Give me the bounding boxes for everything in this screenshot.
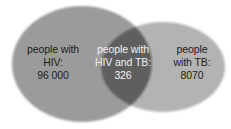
label-hiv-only: people with HIV: 96 000 [8,43,98,82]
tb-only-line-2: with TB: [160,56,224,69]
tb-only-value: 8070 [160,69,224,82]
venn-diagram: people with HIV: 96 000 people with HIV … [0,0,231,129]
intersection-value: 326 [88,69,158,82]
tb-only-line-1: people [160,43,224,56]
intersection-line-1: people with [88,43,158,56]
hiv-only-line-1: people with [8,43,98,56]
label-tb-only: people with TB: 8070 [160,43,224,82]
hiv-only-line-2: HIV: [8,56,98,69]
label-intersection: people with HIV and TB: 326 [88,43,158,82]
hiv-only-value: 96 000 [8,69,98,82]
intersection-line-2: HIV and TB: [88,56,158,69]
